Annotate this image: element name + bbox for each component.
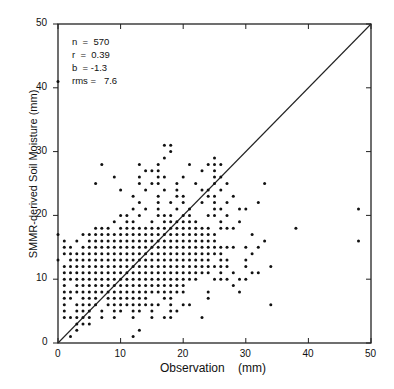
data-point <box>175 291 178 294</box>
data-point <box>182 239 185 242</box>
data-point <box>88 297 91 300</box>
data-point <box>201 246 204 249</box>
data-point <box>113 252 116 255</box>
data-point <box>169 291 172 294</box>
data-point <box>138 297 141 300</box>
data-point <box>182 271 185 274</box>
data-point <box>119 188 122 191</box>
data-point <box>100 265 103 268</box>
data-point <box>175 233 178 236</box>
data-point <box>138 163 141 166</box>
data-point <box>125 227 128 230</box>
data-point <box>107 291 110 294</box>
data-point <box>182 195 185 198</box>
data-point <box>82 271 85 274</box>
data-point <box>244 246 247 249</box>
data-point <box>163 265 166 268</box>
data-point <box>138 214 141 217</box>
data-point <box>132 284 135 287</box>
data-point <box>75 265 78 268</box>
data-point <box>150 246 153 249</box>
data-point <box>100 271 103 274</box>
data-point <box>144 233 147 236</box>
data-point <box>113 291 116 294</box>
data-point <box>69 297 72 300</box>
data-point <box>100 278 103 281</box>
data-point <box>94 265 97 268</box>
y-tick-label: 50 <box>36 17 47 28</box>
data-point <box>82 278 85 281</box>
data-point <box>82 284 85 287</box>
data-point <box>113 316 116 319</box>
data-point <box>182 246 185 249</box>
data-point <box>182 259 185 262</box>
data-point <box>119 271 122 274</box>
data-point <box>219 208 222 211</box>
data-point <box>113 220 116 223</box>
data-point <box>75 291 78 294</box>
data-point <box>169 214 172 217</box>
data-point <box>244 278 247 281</box>
data-point <box>357 239 360 242</box>
data-point <box>175 239 178 242</box>
data-point <box>150 233 153 236</box>
data-point <box>82 303 85 306</box>
data-point <box>226 201 229 204</box>
data-point <box>175 271 178 274</box>
data-point <box>194 220 197 223</box>
data-point <box>138 239 141 242</box>
data-point <box>169 310 172 313</box>
data-point <box>69 335 72 338</box>
data-point <box>125 259 128 262</box>
data-point <box>226 265 229 268</box>
data-point <box>182 227 185 230</box>
data-point <box>219 246 222 249</box>
data-point <box>150 259 153 262</box>
data-point <box>63 310 66 313</box>
data-point <box>169 239 172 242</box>
data-point <box>94 259 97 262</box>
data-point <box>194 259 197 262</box>
data-point <box>138 271 141 274</box>
data-point <box>88 239 91 242</box>
data-point <box>132 316 135 319</box>
data-point <box>119 310 122 313</box>
data-point <box>107 271 110 274</box>
data-point <box>213 208 216 211</box>
stat-rms: rms = 7.6 <box>72 74 117 87</box>
data-points <box>57 80 361 338</box>
data-point <box>113 176 116 179</box>
data-point <box>182 278 185 281</box>
data-point <box>94 271 97 274</box>
data-point <box>100 239 103 242</box>
data-point <box>119 265 122 268</box>
data-point <box>163 297 166 300</box>
data-point <box>107 227 110 230</box>
data-point <box>100 259 103 262</box>
data-point <box>238 208 241 211</box>
data-point <box>138 329 141 332</box>
data-point <box>175 265 178 268</box>
data-point <box>175 188 178 191</box>
data-point <box>119 246 122 249</box>
data-point <box>213 265 216 268</box>
x-tick-label: 50 <box>365 348 376 359</box>
data-point <box>232 284 235 287</box>
data-point <box>119 297 122 300</box>
data-point <box>94 227 97 230</box>
data-point <box>207 163 210 166</box>
data-point <box>226 259 229 262</box>
data-point <box>194 239 197 242</box>
data-point <box>251 252 254 255</box>
x-tick-label: 20 <box>177 348 188 359</box>
data-point <box>163 278 166 281</box>
data-point <box>188 278 191 281</box>
data-point <box>188 265 191 268</box>
data-point <box>82 252 85 255</box>
data-point <box>207 239 210 242</box>
data-point <box>113 233 116 236</box>
data-point <box>119 214 122 217</box>
data-point <box>244 265 247 268</box>
data-point <box>213 176 216 179</box>
data-point <box>163 291 166 294</box>
